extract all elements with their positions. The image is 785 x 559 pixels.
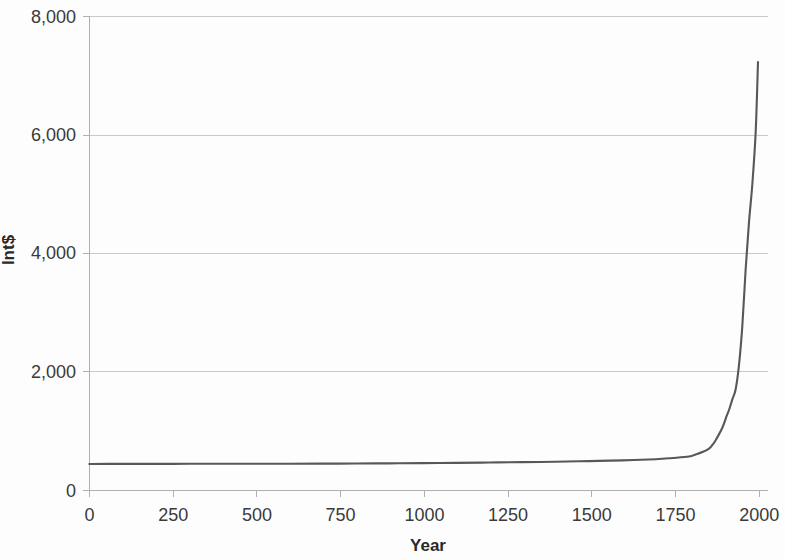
x-tick-label-750: 750 [326, 505, 356, 525]
y-tick-label-2000: 2,000 [31, 362, 76, 382]
y-axis-ticks [83, 17, 89, 491]
x-axis-title: Year [410, 536, 446, 555]
x-tick-label-1500: 1500 [572, 505, 612, 525]
x-tick-label-0: 0 [84, 505, 94, 525]
chart-page: 8,000 6,000 4,000 2,000 0 0 250 500 750 … [0, 0, 785, 559]
line-chart: 8,000 6,000 4,000 2,000 0 0 250 500 750 … [0, 0, 785, 559]
x-tick-label-1250: 1250 [488, 505, 528, 525]
x-tick-label-2000: 2000 [739, 505, 779, 525]
x-axis-tick-labels: 0 250 500 750 1000 1250 1500 1750 2000 [84, 505, 779, 525]
x-axis-ticks [90, 490, 760, 497]
y-axis-tick-labels: 8,000 6,000 4,000 2,000 0 [31, 7, 76, 501]
x-tick-label-250: 250 [158, 505, 188, 525]
x-tick-label-500: 500 [242, 505, 272, 525]
y-tick-label-8000: 8,000 [31, 7, 76, 27]
x-tick-label-1000: 1000 [404, 505, 444, 525]
y-axis-title: Int$ [0, 234, 18, 265]
y-tick-label-0: 0 [66, 481, 76, 501]
y-tick-label-6000: 6,000 [31, 125, 76, 145]
y-tick-label-4000: 4,000 [31, 243, 76, 263]
x-tick-label-1750: 1750 [655, 505, 695, 525]
